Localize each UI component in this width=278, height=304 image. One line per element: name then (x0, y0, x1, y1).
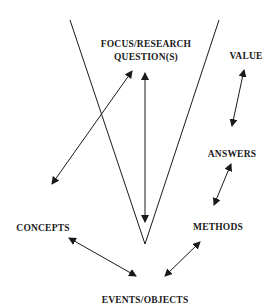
focus-question-label: FOCUS/RESEARCH QUESTION(S) (96, 38, 196, 64)
methods-events-arrow (165, 242, 200, 276)
methods-label: METHODS (189, 221, 247, 234)
focus-line-2: QUESTION(S) (96, 51, 196, 64)
concepts-focus-arrow (52, 71, 132, 184)
concepts-events-arrow (69, 238, 136, 276)
answers-label: ANSWERS (204, 148, 260, 161)
events-objects-label: EVENTS/OBJECTS (95, 294, 195, 304)
value-label: VALUE (226, 50, 266, 63)
focus-line-1: FOCUS/RESEARCH (96, 38, 196, 51)
concepts-label: CONCEPTS (12, 222, 74, 235)
answers-methods-arrow (214, 164, 231, 205)
value-answers-arrow (232, 70, 244, 126)
vee-diagram: FOCUS/RESEARCH QUESTION(S) VALUE ANSWERS… (0, 0, 278, 304)
